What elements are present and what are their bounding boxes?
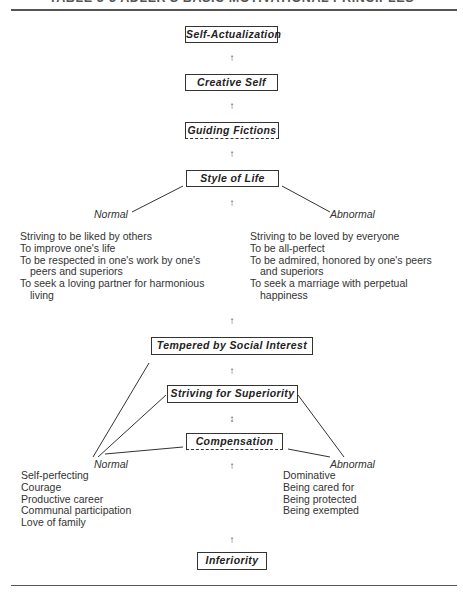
style-abnormal-connector <box>282 186 330 212</box>
arrow-up-icon: ↑ <box>227 535 237 545</box>
style-of-life-box: Style of Life <box>186 170 279 187</box>
list-item: To seek a marriage with perpetualhappine… <box>250 278 432 302</box>
striving-abnormal-connector <box>298 395 344 457</box>
list-item: To be respected in one's work by one'spe… <box>20 255 204 279</box>
inferiority-box: Inferiority <box>197 552 267 570</box>
style-normal-connector <box>132 186 183 212</box>
list-item: Being exempted <box>283 505 359 517</box>
arrow-up-icon: ↑ <box>227 101 237 111</box>
tempered-normal-connector <box>93 363 149 457</box>
arrow-up-icon: ↑ <box>227 53 237 63</box>
compensation-normal-connector <box>105 447 183 454</box>
arrow-up-icon: ↑ <box>227 316 237 326</box>
tempered-by-social-interest-box: Tempered by Social Interest <box>151 337 313 355</box>
arrow-up-icon: ↑ <box>227 198 237 208</box>
list-item: Courage <box>21 482 131 494</box>
style-normal-label: Normal <box>94 208 128 220</box>
compensation-box: Compensation <box>186 433 283 450</box>
arrow-up-icon: ↑ <box>227 461 237 471</box>
self-actualization-box: Self-Actualization <box>185 26 278 43</box>
compensation-abnormal-list: Dominative Being cared for Being protect… <box>283 470 359 517</box>
guiding-fictions-box: Guiding Fictions <box>185 122 279 139</box>
list-item: Being cared for <box>283 482 359 494</box>
compensation-abnormal-label: Abnormal <box>330 458 375 470</box>
striving-normal-connector <box>98 395 166 457</box>
bottom-rule <box>11 585 457 586</box>
compensation-abnormal-connector <box>288 449 330 457</box>
arrow-updown-icon: ↕ <box>227 414 237 424</box>
arrow-up-icon: ↑ <box>227 366 237 376</box>
style-abnormal-label: Abnormal <box>330 208 375 220</box>
striving-for-superiority-box: Striving for Superiority <box>167 385 298 403</box>
arrow-up-icon: ↑ <box>227 149 237 159</box>
compensation-normal-label: Normal <box>94 458 128 470</box>
compensation-normal-list: Self-perfecting Courage Productive caree… <box>21 470 131 529</box>
list-item: To seek a loving partner for harmoniousl… <box>20 278 204 302</box>
style-abnormal-list: Striving to be loved by everyone To be a… <box>250 231 432 302</box>
list-item: To be admired, honored by one's peersand… <box>250 255 432 279</box>
style-normal-list: Striving to be liked by others To improv… <box>20 231 204 302</box>
list-item: Love of family <box>21 517 131 529</box>
creative-self-box: Creative Self <box>185 74 278 91</box>
